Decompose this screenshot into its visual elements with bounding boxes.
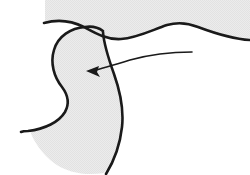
line-drawing-illustration <box>0 0 250 175</box>
figure-canvas: Black and white line illustration: a gra… <box>0 0 250 175</box>
shaded-main-form <box>30 28 123 174</box>
